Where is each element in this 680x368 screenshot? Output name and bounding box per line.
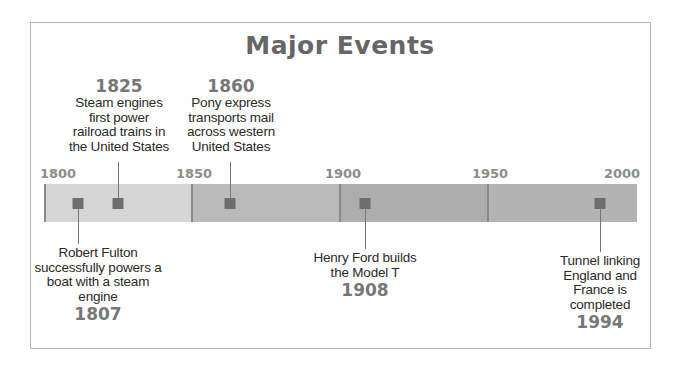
event-line: transports mail — [156, 111, 306, 126]
event-line: England and — [525, 269, 675, 284]
event-year: 1908 — [290, 280, 440, 300]
divider-1800 — [44, 184, 46, 222]
diagram-title: Major Events — [0, 31, 680, 60]
leader-line-1908 — [365, 209, 366, 249]
event-label-1860: 1860 Pony express transports mail across… — [156, 76, 306, 154]
event-line: Pony express — [156, 96, 306, 111]
event-line: the Model T — [290, 266, 440, 281]
tick-label-2000: 2000 — [604, 166, 640, 181]
event-line: across western — [156, 125, 306, 140]
event-line: Henry Ford builds — [290, 251, 440, 266]
tick-label-1850: 1850 — [176, 166, 212, 181]
event-line: boat with a steam — [23, 275, 173, 290]
event-line: Tunnel linking — [525, 254, 675, 269]
event-marker-1807 — [73, 198, 84, 209]
segment-1850-1900 — [192, 184, 340, 222]
event-label-1908: Henry Ford builds the Model T 1908 — [290, 251, 440, 300]
event-line: completed — [525, 298, 675, 313]
divider-1950 — [487, 184, 489, 222]
event-label-1807: Robert Fulton successfully powers a boat… — [23, 246, 173, 324]
event-line: successfully powers a — [23, 261, 173, 276]
segment-1950-2000 — [488, 184, 637, 222]
event-line: United States — [156, 140, 306, 155]
tick-label-1800: 1800 — [40, 166, 76, 181]
divider-1900 — [339, 184, 341, 222]
event-line: Robert Fulton — [23, 246, 173, 261]
event-year: 1994 — [525, 312, 675, 332]
leader-line-1860 — [230, 162, 231, 199]
tick-label-1950: 1950 — [472, 166, 508, 181]
event-line: France is — [525, 283, 675, 298]
timeline-bar — [44, 184, 637, 222]
event-year: 1860 — [156, 76, 306, 96]
leader-line-1825 — [118, 162, 119, 199]
divider-1850 — [191, 184, 193, 222]
event-line: engine — [23, 290, 173, 305]
event-marker-1825 — [113, 198, 124, 209]
leader-line-1807 — [78, 209, 79, 244]
event-marker-1860 — [225, 198, 236, 209]
event-marker-1908 — [360, 198, 371, 209]
event-marker-1994 — [595, 198, 606, 209]
tick-label-1900: 1900 — [325, 166, 361, 181]
event-label-1994: Tunnel linking England and France is com… — [525, 254, 675, 332]
event-year: 1807 — [23, 304, 173, 324]
leader-line-1994 — [600, 209, 601, 252]
